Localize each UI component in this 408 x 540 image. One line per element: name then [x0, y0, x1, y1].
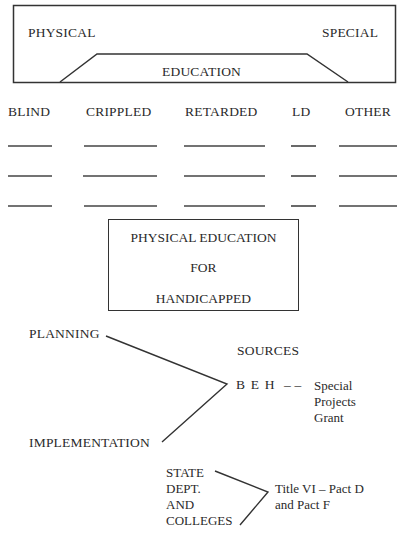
planning-implementation-bracket	[106, 336, 227, 442]
column-header-other: OTHER	[345, 104, 391, 120]
title-vi-line-1: Title VI – Pact D	[275, 481, 364, 497]
beh-program-line-2: Projects	[314, 394, 356, 410]
beh-dash: – –	[284, 377, 301, 393]
state-line-4: COLLEGES	[166, 513, 232, 529]
column-header-crippled: CRIPPLED	[86, 104, 151, 120]
sources-heading: SOURCES	[237, 343, 299, 359]
beh-program-line-3: Grant	[314, 410, 356, 426]
state-line-1: STATE	[166, 465, 232, 481]
implementation-label: IMPLEMENTATION	[29, 435, 150, 451]
physical-label: PHYSICAL	[28, 25, 96, 41]
planning-label: PLANNING	[29, 326, 100, 342]
beh-program-line-1: Special	[314, 378, 356, 394]
education-label: EDUCATION	[162, 64, 241, 80]
state-line-3: AND	[166, 497, 232, 513]
title-vi-program: Title VI – Pact D and Pact F	[275, 481, 364, 513]
center-box-line-3: HANDICAPPED	[109, 291, 298, 307]
column-header-blind: BLIND	[8, 104, 50, 120]
beh-program: Special Projects Grant	[314, 378, 356, 426]
center-box-line-2: FOR	[109, 260, 298, 276]
state-dept-colleges: STATE DEPT. AND COLLEGES	[166, 465, 232, 529]
title-vi-line-2: and Pact F	[275, 497, 364, 513]
column-header-retarded: RETARDED	[185, 104, 258, 120]
center-box-line-1: PHYSICAL EDUCATION	[109, 230, 298, 246]
physical-education-for-handicapped-box: PHYSICAL EDUCATION FOR HANDICAPPED	[108, 219, 299, 311]
column-header-ld: LD	[292, 104, 310, 120]
state-line-2: DEPT.	[166, 481, 232, 497]
special-label: SPECIAL	[322, 25, 378, 41]
beh-label: B E H	[236, 377, 275, 393]
blank-lines	[8, 146, 397, 206]
